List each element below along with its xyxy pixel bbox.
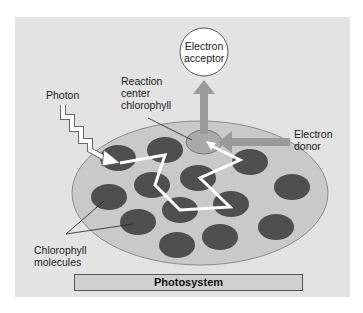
electron-donor-line-2: donor: [294, 140, 333, 152]
electron-acceptor-label: Electron acceptor: [184, 40, 224, 64]
reaction-center-label: Reaction center chlorophyll: [121, 75, 171, 111]
electron-acceptor-line-2: acceptor: [184, 52, 224, 64]
chlorophyll-line-2: molecules: [34, 256, 87, 268]
reaction-center-line-2: center: [121, 87, 171, 99]
electron-donor-label: Electron donor: [294, 128, 333, 152]
electron-donor-line-1: Electron: [294, 128, 333, 140]
photon-label: Photon: [46, 89, 79, 101]
chlorophyll-line-1: Chlorophyll: [34, 244, 87, 256]
electron-acceptor-line-1: Electron: [184, 40, 224, 52]
chlorophyll-molecules-label: Chlorophyll molecules: [34, 244, 87, 268]
reaction-center-line-1: Reaction: [121, 75, 171, 87]
reaction-center-line-3: chlorophyll: [121, 99, 171, 111]
photosystem-title: Photosystem: [74, 274, 303, 291]
